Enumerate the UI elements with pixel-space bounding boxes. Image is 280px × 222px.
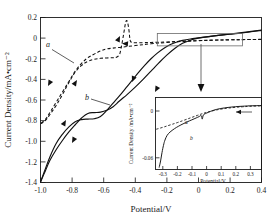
y-axis-label: Current Density/mA•cm⁻² (3, 52, 13, 148)
pointer-arrow-icon (198, 84, 205, 92)
curve-label-a-group: a (46, 40, 74, 63)
inset-y-tick-0: 0 (150, 108, 153, 114)
x-tick-0: -1.0 (35, 186, 47, 195)
x-tick-5: 0 (197, 186, 201, 195)
cv-figure: 0.2 0 -0.2 -0.4 -0.6 -0.8 -1.0 -1.2 -1.4… (0, 0, 280, 222)
y-tick-7: -1.2 (25, 158, 37, 167)
inset-y-axis-label: Current Density /mA•cm⁻² (128, 103, 134, 164)
y-tick-2: -0.2 (25, 55, 37, 64)
y-tick-3: -0.4 (25, 75, 37, 84)
direction-arrow-icon (72, 79, 80, 87)
direction-arrow-icon (115, 35, 122, 43)
direction-arrow-icon (153, 85, 160, 93)
x-tick-4: -0.2 (161, 186, 173, 195)
inset-plot: 0 -0.06 Current Density /mA•cm⁻² -0.3 -0… (128, 98, 262, 184)
x-tick-1: -0.8 (66, 186, 78, 195)
x-axis-ticks (41, 178, 262, 183)
inset-curves (156, 106, 261, 168)
x-tick-2: -0.6 (98, 186, 110, 195)
inset-x-axis-label: Potential/V (200, 178, 225, 184)
y-axis-tick-labels: 0.2 0 -0.2 -0.4 -0.6 -0.8 -1.0 -1.2 -1.4 (25, 13, 37, 187)
y-tick-1: 0 (33, 34, 37, 43)
inset-x-tick-5: 0.2 (233, 171, 240, 177)
y-tick-6: -1.0 (25, 137, 37, 146)
y-tick-4: -0.6 (25, 96, 37, 105)
inset-region-box (157, 33, 242, 45)
inset-x-tick-4: 0.1 (218, 171, 225, 177)
inset-y-ticks (156, 111, 160, 158)
scan-direction-arrows (46, 35, 160, 144)
direction-arrow-icon (61, 119, 69, 127)
curve-label-b-group: b (85, 93, 110, 105)
x-axis-label: Potential/V (131, 204, 172, 214)
y-axis-ticks (41, 18, 46, 183)
inset-x-ticks (163, 166, 251, 170)
inset-curve-b (159, 106, 261, 168)
chart-svg: 0.2 0 -0.2 -0.4 -0.6 -0.8 -1.0 -1.2 -1.4… (0, 0, 280, 222)
curve-label-b: b (85, 93, 89, 102)
highlight-box-group (157, 33, 242, 92)
x-axis-tick-labels: -1.0 -0.8 -0.6 -0.4 -0.2 0 0.2 0.4 (35, 186, 267, 195)
inset-x-tick-3: 0 (205, 171, 208, 177)
direction-arrow-icon (46, 79, 53, 87)
inset-curve-a (156, 106, 261, 129)
direction-arrow-icon (70, 136, 77, 144)
inset-label-b: b (190, 135, 193, 141)
curve-label-a: a (46, 40, 50, 49)
inset-y-tick-1: -0.06 (142, 155, 153, 161)
inset-label-a: a (185, 119, 188, 125)
inset-x-tick-6: 0.3 (247, 171, 254, 177)
y-tick-5: -0.8 (25, 116, 37, 125)
inset-x-tick-2: -0.1 (188, 171, 197, 177)
inset-x-tick-1: -0.2 (173, 171, 182, 177)
inset-x-tick-labels: -0.3 -0.2 -0.1 0 0.1 0.2 0.3 (159, 171, 254, 177)
y-tick-0: 0.2 (28, 13, 38, 22)
x-tick-7: 0.4 (257, 186, 267, 195)
x-tick-6: 0.2 (225, 186, 235, 195)
x-tick-3: -0.4 (129, 186, 141, 195)
inset-x-tick-0: -0.3 (159, 171, 168, 177)
